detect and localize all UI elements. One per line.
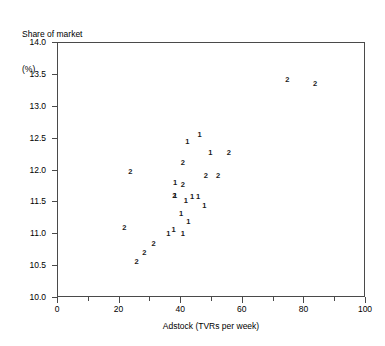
y-axis-tick-label: 12.5 — [16, 134, 46, 143]
x-axis: 020406080100 — [57, 297, 366, 321]
x-axis-tick-label: 100 — [350, 305, 380, 314]
y-axis-tick-label: 14.0 — [16, 38, 46, 47]
data-point-2: 2 — [151, 240, 155, 248]
y-axis-tick-label: 10.0 — [16, 293, 46, 302]
data-point-1: 1 — [184, 197, 188, 205]
x-axis-minor-tick — [88, 297, 89, 301]
plot-area: 111111111111112222222222222 — [58, 43, 364, 296]
data-point-1: 1 — [186, 218, 190, 226]
data-point-2: 2 — [122, 224, 126, 232]
x-axis-tick — [365, 297, 366, 303]
x-axis-minor-tick — [149, 297, 150, 301]
data-point-2: 2 — [128, 168, 132, 176]
data-point-2: 2 — [285, 76, 289, 84]
data-point-1: 1 — [208, 149, 212, 157]
data-point-2: 2 — [216, 172, 220, 180]
y-axis-tick-label: 10.5 — [16, 261, 46, 270]
chart-page: Share of market (%) 10.010.511.011.512.0… — [0, 0, 385, 346]
x-axis-tick-label: 40 — [165, 305, 195, 314]
x-axis-tick-label: 20 — [104, 305, 134, 314]
data-point-1: 1 — [181, 231, 185, 239]
data-point-2: 2 — [134, 258, 138, 266]
y-axis-tick-label: 13.5 — [16, 70, 46, 79]
data-point-1: 1 — [190, 194, 194, 202]
y-axis-tick-label: 11.0 — [16, 229, 46, 238]
data-point-2: 2 — [204, 172, 208, 180]
data-point-2: 2 — [142, 250, 146, 258]
x-axis-tick — [119, 297, 120, 303]
data-point-1: 1 — [198, 132, 202, 140]
data-point-2: 2 — [181, 181, 185, 189]
x-axis-minor-tick — [273, 297, 274, 301]
x-axis-tick — [303, 297, 304, 303]
data-point-1: 1 — [202, 202, 206, 210]
y-axis: 10.010.511.011.512.012.513.013.514.0 — [0, 42, 57, 297]
data-point-1: 1 — [179, 210, 183, 218]
data-point-2: 2 — [227, 149, 231, 157]
x-axis-tick-label: 60 — [227, 305, 257, 314]
x-axis-title: Adstock (TVRs per week) — [57, 321, 365, 331]
y-axis-tick-label: 11.5 — [16, 197, 46, 206]
x-axis-tick-label: 0 — [42, 305, 72, 314]
plot-frame: 111111111111112222222222222 — [57, 42, 365, 297]
data-point-1: 1 — [185, 138, 189, 146]
y-axis-tick-label: 12.0 — [16, 166, 46, 175]
x-axis-tick-label: 80 — [288, 305, 318, 314]
data-point-1: 1 — [171, 226, 175, 234]
data-point-2: 2 — [313, 81, 317, 89]
x-axis-minor-tick — [211, 297, 212, 301]
y-axis-tick-label: 13.0 — [16, 102, 46, 111]
x-axis-tick — [57, 297, 58, 303]
x-axis-tick — [180, 297, 181, 303]
x-axis-tick — [242, 297, 243, 303]
data-point-1: 1 — [173, 180, 177, 188]
data-point-1: 1 — [166, 231, 170, 239]
x-axis-minor-tick — [334, 297, 335, 301]
data-point-2: 2 — [181, 159, 185, 167]
data-point-2: 2 — [172, 192, 176, 200]
data-point-1: 1 — [196, 194, 200, 202]
